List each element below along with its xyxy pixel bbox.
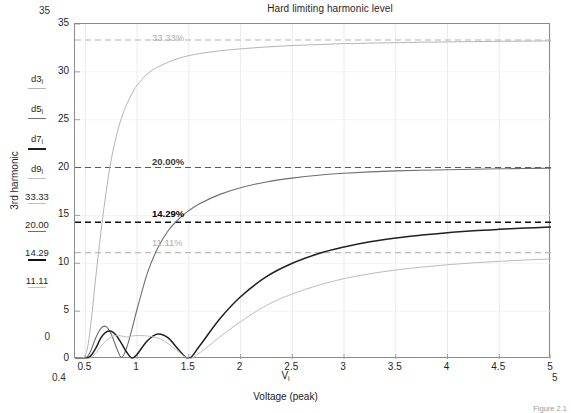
legend-item-label: 11.11 <box>14 276 60 286</box>
legend-item-d3[interactable]: d3i <box>14 74 60 89</box>
chart-figure: Hard limiting harmonic level 35 0 0.4 5 … <box>0 0 571 413</box>
x-tick-label: 1 <box>121 361 151 372</box>
legend-item-label: 33.33 <box>14 192 60 202</box>
callout-33.33: 33.33% <box>152 32 184 43</box>
legend-item-20_00[interactable]: 20.00 <box>14 220 60 232</box>
x-tick-label: 2 <box>225 361 255 372</box>
y-tick-label: 0 <box>45 352 69 363</box>
x-tick-label: 5 <box>535 361 565 372</box>
x-tick-label: 2.5 <box>276 361 306 372</box>
legend-item-swatch <box>28 203 46 204</box>
x-tick-label: 3.5 <box>380 361 410 372</box>
series-d7i <box>75 227 551 359</box>
x-axis-subscript: i <box>288 375 290 382</box>
y-tick-label: 20 <box>45 161 69 172</box>
legend-item-label: d7i <box>14 134 60 147</box>
legend-item-swatch <box>28 259 46 261</box>
legend-item-33_33[interactable]: 33.33 <box>14 192 60 204</box>
plot-area <box>74 23 550 358</box>
y-tick-label: 15 <box>45 208 69 219</box>
y-tick-label: 30 <box>45 65 69 76</box>
legend-item-swatch <box>28 148 46 150</box>
y-range-max-label: 35 <box>28 5 50 16</box>
callout-14.29: 14.29% <box>152 208 184 219</box>
callout-11.11: 11.11% <box>152 237 183 248</box>
x-tick-label: 4.5 <box>483 361 513 372</box>
legend-item-swatch <box>28 88 46 89</box>
legend-item-swatch <box>28 287 46 288</box>
legend-item-swatch <box>28 118 46 119</box>
legend-item-d7[interactable]: d7i <box>14 134 60 150</box>
series-d9i <box>75 259 551 359</box>
legend-item-swatch <box>28 178 46 179</box>
legend-item-11_11[interactable]: 11.11 <box>14 276 60 288</box>
callout-20.00: 20.00% <box>152 156 184 167</box>
y-range-min-label: 0 <box>28 331 50 342</box>
y-tick-label: 35 <box>45 17 69 28</box>
figure-caption: Figure 2.1 <box>0 404 571 413</box>
x-tick-label: 0.5 <box>69 361 99 372</box>
legend-item-label: d3i <box>14 74 60 87</box>
y-tick-label: 10 <box>45 256 69 267</box>
legend-item-swatch <box>28 231 46 232</box>
y-tick-label: 5 <box>45 304 69 315</box>
x-tick-label: 4 <box>432 361 462 372</box>
page-title: Hard limiting harmonic level <box>130 3 530 14</box>
y-tick-label: 25 <box>45 113 69 124</box>
legend-item-label: 20.00 <box>14 220 60 230</box>
plot-canvas <box>75 24 551 359</box>
x-tick-label: 1.5 <box>173 361 203 372</box>
x-axis-name-label: Voltage (peak) <box>0 391 571 402</box>
x-tick-label: 3 <box>328 361 358 372</box>
